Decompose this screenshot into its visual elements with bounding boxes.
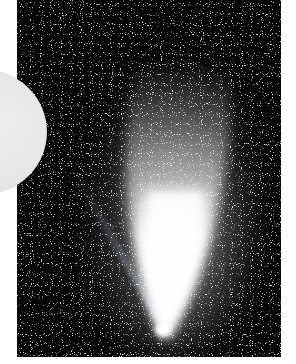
comet-scene (17, 0, 281, 357)
star-field (17, 0, 281, 357)
comet-photograph: Long-exposure photograph of a bright com… (17, 0, 281, 357)
